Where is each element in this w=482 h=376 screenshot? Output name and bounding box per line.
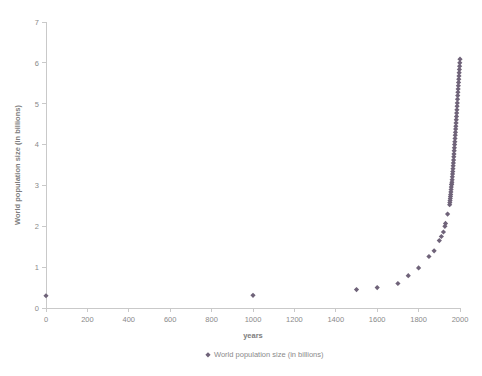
x-tick-label: 1400 (327, 315, 344, 324)
x-tick-label: 2000 (452, 315, 469, 324)
x-tick-label: 1200 (286, 315, 303, 324)
x-tick-label: 200 (81, 315, 94, 324)
data-point (416, 265, 421, 270)
data-point (375, 285, 380, 290)
y-axis-ticks: 01234567 (35, 18, 46, 313)
data-point (250, 293, 255, 298)
x-axis-ticks: 0200400600800100012001400160018002000 (44, 308, 468, 324)
y-tick-label: 2 (35, 222, 39, 231)
x-tick-label: 800 (205, 315, 218, 324)
x-tick-label: 1600 (369, 315, 386, 324)
x-tick-label: 600 (164, 315, 177, 324)
y-tick-label: 3 (35, 181, 39, 190)
chart-canvas: 01234567 0200400600800100012001400160018… (0, 0, 482, 376)
legend-label: World population size (in billions) (214, 350, 324, 359)
y-tick-label: 4 (35, 140, 39, 149)
y-tick-label: 7 (35, 18, 39, 27)
x-axis-group: 0200400600800100012001400160018002000 (44, 308, 468, 324)
x-tick-label: 400 (123, 315, 136, 324)
population-scatter-chart: 01234567 0200400600800100012001400160018… (0, 0, 482, 376)
y-axis-group: 01234567 (35, 18, 46, 313)
chart-legend: World population size (in billions) (205, 350, 324, 359)
x-tick-label: 1000 (245, 315, 262, 324)
data-point-series (43, 57, 462, 299)
data-point (457, 57, 462, 62)
x-tick-label: 0 (44, 315, 48, 324)
data-point (441, 229, 446, 234)
data-point (445, 211, 450, 216)
data-point (406, 273, 411, 278)
data-point (432, 248, 437, 253)
x-tick-label: 1800 (410, 315, 427, 324)
x-axis-title: years (243, 331, 263, 340)
y-tick-label: 6 (35, 59, 39, 68)
y-tick-label: 5 (35, 100, 39, 109)
y-axis-title: World population size (in billions) (13, 105, 22, 225)
data-point (354, 287, 359, 292)
y-tick-label: 1 (35, 263, 39, 272)
data-point (395, 281, 400, 286)
legend-diamond-icon (205, 352, 210, 357)
y-tick-label: 0 (35, 304, 39, 313)
data-point (426, 254, 431, 259)
data-point (43, 293, 48, 298)
